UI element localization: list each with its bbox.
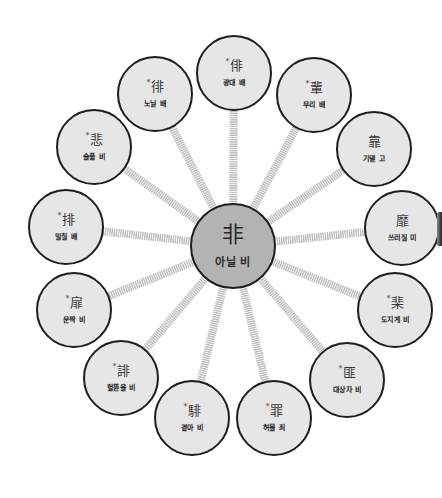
connector-10 bbox=[107, 258, 197, 300]
character-node: *棐도지게 비 bbox=[357, 272, 433, 348]
hanja-glyph: 非 bbox=[222, 222, 244, 247]
korean-reading: 슬플 비 bbox=[83, 151, 105, 161]
connector-4 bbox=[273, 228, 365, 246]
asterisk-mark: * bbox=[113, 362, 117, 371]
connector-2 bbox=[249, 126, 300, 212]
connector-3 bbox=[265, 167, 346, 226]
korean-reading: 곁마 비 bbox=[181, 422, 203, 432]
hanja-glyph: 匪 bbox=[343, 365, 356, 380]
hanja-glyph: 靡 bbox=[396, 213, 409, 228]
hanja-character: *誹 bbox=[113, 364, 130, 377]
asterisk-mark: * bbox=[387, 294, 391, 303]
hanja-character: *徘 bbox=[147, 80, 164, 93]
hanja-character: *排 bbox=[58, 213, 75, 226]
connector-7 bbox=[239, 285, 270, 383]
connector-11 bbox=[102, 227, 192, 245]
connector-12 bbox=[122, 165, 202, 225]
connector-13 bbox=[168, 125, 218, 211]
center-node: 非아닐 비 bbox=[190, 203, 276, 289]
asterisk-mark: * bbox=[306, 79, 310, 88]
asterisk-mark: * bbox=[86, 131, 90, 140]
hanja-glyph: 徘 bbox=[151, 79, 164, 94]
hanja-character: *匪 bbox=[339, 366, 356, 379]
character-node: *輩무리 배 bbox=[276, 57, 352, 133]
asterisk-mark: * bbox=[58, 211, 62, 220]
character-node: *騑곁마 비 bbox=[154, 380, 230, 456]
hanja-glyph: 誹 bbox=[117, 363, 130, 378]
character-node: *徘노닐 배 bbox=[117, 56, 193, 132]
korean-reading: 무리 배 bbox=[303, 99, 325, 109]
asterisk-mark: * bbox=[66, 294, 70, 303]
korean-reading: 노닐 배 bbox=[144, 98, 166, 108]
hanja-glyph: 悲 bbox=[90, 132, 103, 147]
korean-reading: 밀칠 배 bbox=[55, 231, 77, 241]
hanja-character: 靡 bbox=[396, 214, 409, 227]
page-edge-shadow bbox=[437, 212, 442, 246]
hanja-character: 非 bbox=[222, 224, 244, 246]
hanja-glyph: 騑 bbox=[188, 403, 201, 418]
hanja-character: *扉 bbox=[66, 296, 83, 309]
korean-reading: 도지게 비 bbox=[381, 314, 409, 324]
hanja-character: *悲 bbox=[86, 133, 103, 146]
hanja-glyph: 罪 bbox=[270, 403, 283, 418]
hanja-glyph: 扉 bbox=[70, 295, 83, 310]
hanja-glyph: 輩 bbox=[310, 80, 323, 95]
asterisk-mark: * bbox=[266, 402, 270, 411]
korean-reading: 허물 죄 bbox=[263, 422, 285, 432]
hanja-character: *騑 bbox=[184, 404, 201, 417]
character-node: *排밀칠 배 bbox=[28, 189, 104, 265]
connector-1 bbox=[229, 110, 238, 205]
korean-reading: 기댈 고 bbox=[363, 153, 385, 163]
connector-9 bbox=[142, 275, 210, 353]
asterisk-mark: * bbox=[226, 57, 230, 66]
asterisk-mark: * bbox=[339, 364, 343, 373]
korean-reading: 쓰러질 미 bbox=[388, 232, 416, 242]
asterisk-mark: * bbox=[147, 78, 151, 87]
character-node: 靠기댈 고 bbox=[336, 111, 412, 187]
hanja-glyph: 靠 bbox=[368, 134, 381, 149]
hanja-character: 靠 bbox=[368, 135, 381, 148]
character-node: *罪허물 죄 bbox=[236, 380, 312, 456]
korean-reading: 헐뜯을 비 bbox=[107, 382, 135, 392]
hanja-glyph: 排 bbox=[62, 212, 75, 227]
character-node: *悲슬플 비 bbox=[56, 109, 132, 185]
korean-reading: 광대 배 bbox=[223, 77, 245, 87]
hanja-glyph: 棐 bbox=[391, 295, 404, 310]
character-node: *誹헐뜯을 비 bbox=[83, 340, 159, 416]
character-node: *匪대상자 비 bbox=[309, 342, 385, 418]
character-node: 靡쓰러질 미 bbox=[364, 190, 440, 266]
korean-reading: 문짝 비 bbox=[63, 314, 85, 324]
radial-diagram: *俳광대 배*輩무리 배靠기댈 고靡쓰러질 미*棐도지게 비*匪대상자 비*罪허… bbox=[0, 0, 442, 498]
connector-5 bbox=[270, 257, 362, 300]
hanja-character: *棐 bbox=[387, 296, 404, 309]
hanja-character: *俳 bbox=[226, 59, 243, 72]
connector-6 bbox=[257, 275, 327, 355]
asterisk-mark: * bbox=[184, 402, 188, 411]
hanja-glyph: 俳 bbox=[230, 58, 243, 73]
korean-reading: 아닐 비 bbox=[215, 253, 250, 269]
hanja-character: *罪 bbox=[266, 404, 283, 417]
korean-reading: 대상자 비 bbox=[333, 384, 361, 394]
hanja-character: *輩 bbox=[306, 81, 323, 94]
character-node: *俳광대 배 bbox=[196, 35, 272, 111]
connector-8 bbox=[197, 285, 228, 383]
character-node: *扉문짝 비 bbox=[36, 272, 112, 348]
